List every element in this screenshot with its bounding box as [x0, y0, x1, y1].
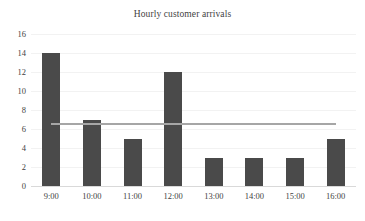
bar: [164, 72, 182, 186]
gridline: [31, 110, 356, 111]
gridline: [31, 53, 356, 54]
bar: [245, 158, 263, 187]
bar: [286, 158, 304, 187]
bar: [205, 158, 223, 187]
y-axis: 1614121086420: [0, 34, 26, 186]
x-axis-tick-label: 12:00: [154, 190, 192, 202]
x-axis: 9:0010:0011:0012:0013:0014:0015:0016:00: [31, 190, 356, 204]
x-axis-tick-label: 15:00: [276, 190, 314, 202]
y-axis-tick-label: 12: [4, 68, 26, 77]
bar: [327, 139, 345, 187]
y-axis-tick-label: 2: [4, 163, 26, 172]
plot-area: [31, 34, 356, 186]
x-axis-tick-label: 16:00: [317, 190, 355, 202]
bar: [42, 53, 60, 186]
gridline: [31, 72, 356, 73]
bar: [124, 139, 142, 187]
gridline: [31, 129, 356, 130]
y-axis-tick-label: 10: [4, 87, 26, 96]
y-axis-tick-label: 16: [4, 30, 26, 39]
x-axis-tick-label: 9:00: [32, 190, 70, 202]
average-reference-line: [51, 123, 335, 125]
y-axis-tick-label: 6: [4, 125, 26, 134]
y-axis-tick-label: 8: [4, 106, 26, 115]
x-axis-tick-label: 13:00: [195, 190, 233, 202]
y-axis-tick-label: 0: [4, 182, 26, 191]
y-axis-tick-label: 4: [4, 144, 26, 153]
bar: [83, 120, 101, 187]
gridline: [31, 148, 356, 149]
axis-baseline: [31, 186, 356, 187]
gridline: [31, 34, 356, 35]
x-axis-tick-label: 11:00: [114, 190, 152, 202]
chart-title: Hourly customer arrivals: [0, 9, 365, 19]
x-axis-tick-label: 10:00: [73, 190, 111, 202]
gridline: [31, 91, 356, 92]
gridline: [31, 167, 356, 168]
y-axis-tick-label: 14: [4, 49, 26, 58]
x-axis-tick-label: 14:00: [235, 190, 273, 202]
bar-chart: Hourly customer arrivals 1614121086420 9…: [0, 0, 365, 221]
